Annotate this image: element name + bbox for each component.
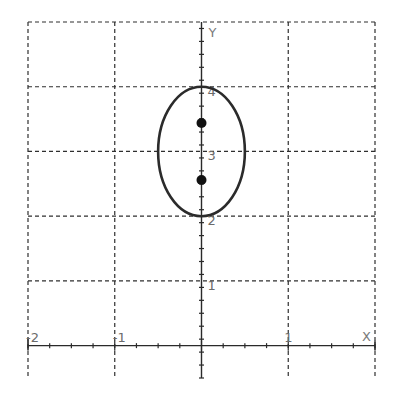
- axes: [28, 22, 375, 378]
- focus-point: [197, 118, 207, 128]
- y-axis-label: Y: [208, 25, 217, 40]
- y-tick-label: 1: [208, 278, 216, 293]
- focus-point: [197, 175, 207, 185]
- y-tick-label: 4: [208, 84, 216, 99]
- ellipse-plot: -2-111234 X Y: [0, 0, 396, 405]
- x-tick-label: 1: [284, 330, 292, 345]
- x-tick-label: -2: [26, 330, 39, 345]
- tick-labels: -2-111234: [26, 84, 293, 345]
- x-tick-label: -1: [113, 330, 126, 345]
- y-tick-label: 3: [208, 148, 216, 163]
- x-axis-label: X: [362, 329, 371, 344]
